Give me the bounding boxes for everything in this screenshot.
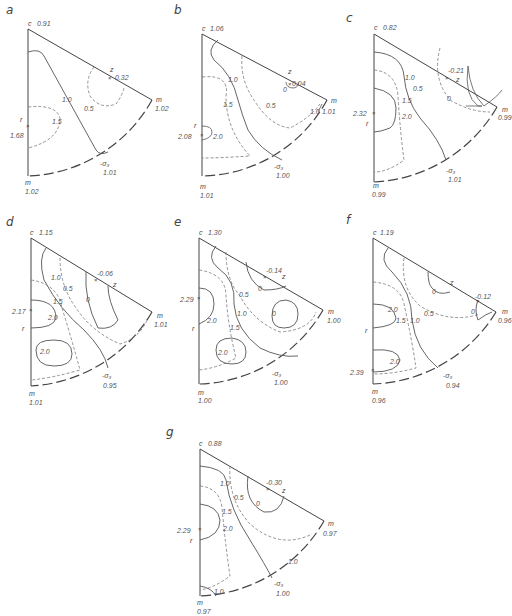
contour-label: 1.0	[237, 310, 247, 317]
m-bottom-value: 1.02	[25, 188, 39, 195]
r-label: r	[365, 327, 367, 334]
m-bottom-label: m	[29, 390, 35, 397]
svg-text:×: ×	[445, 75, 449, 81]
contour-label: 1.5	[396, 317, 406, 324]
m-label: m	[328, 308, 334, 315]
sigma3-label: -σ₃	[274, 580, 283, 587]
contour-label: 2.0	[223, 525, 233, 532]
contour-label: 0	[258, 285, 262, 292]
m-bottom-value: 1.01	[29, 399, 43, 406]
m-bottom-label: m	[372, 388, 378, 395]
m-bottom-value: 0.96	[372, 397, 386, 404]
m-bottom-label: m	[25, 179, 31, 186]
contour-label: 0.5	[84, 105, 94, 112]
sector-diagram: × ×	[170, 200, 340, 400]
contour-label: 1.5	[230, 324, 240, 331]
contour-label: 0	[283, 86, 287, 93]
m-right-value: 0.99	[498, 114, 512, 121]
contour-label: 0.5	[424, 310, 434, 317]
r-value: 2.39	[350, 369, 364, 376]
m-label: m	[502, 308, 508, 315]
sector-diagram: × ×	[340, 200, 512, 400]
sigma3-label: -σ₃	[443, 372, 452, 379]
sigma3-value: 1.00	[276, 172, 290, 179]
c-label: c	[199, 440, 203, 447]
r-label: r	[22, 325, 24, 332]
sector-diagram: × ×	[0, 200, 170, 400]
contour-label: 2.0	[48, 314, 58, 321]
panel-c: c × × c 0.82 -0.21 z 1.0 0.5 1.5 2.0 0 m…	[340, 0, 512, 200]
svg-text:×: ×	[198, 526, 202, 532]
contour-label: 1.0	[220, 480, 230, 487]
z-value: -0.21	[448, 67, 464, 74]
svg-text:×: ×	[266, 486, 270, 492]
m-label: m	[331, 97, 337, 104]
m-bottom-label: m	[197, 599, 203, 606]
m-right-value: 0.96	[498, 317, 512, 324]
sigma3-value: 1.00	[274, 379, 288, 386]
svg-text:×: ×	[200, 132, 204, 138]
m-bottom-value: 1.01	[200, 192, 214, 199]
c-value: 0.88	[208, 440, 222, 447]
panel-g: g × × c 0.88 -0.30 z 1.0 0.5 0 1.5 2.0 1…	[160, 400, 340, 616]
r-value: 1.68	[10, 132, 24, 139]
contour-label: 2.0	[388, 306, 398, 313]
contour-label: 0	[432, 288, 436, 295]
contour-label: 1.0	[214, 588, 224, 595]
r-value: 2.08	[178, 133, 192, 140]
z-value: -0.12	[475, 293, 491, 300]
panel-e: e × × c 1.30 -0.14 z 0 0.5 1.0 1.5 2.0 0…	[170, 200, 340, 400]
z-value: -0.30	[266, 479, 282, 486]
r-value: 2.29	[177, 527, 191, 534]
z-label: z	[450, 279, 454, 286]
z-label: z	[110, 66, 114, 73]
m-right-value: 1.01	[154, 321, 168, 328]
sigma3-value: 0.94	[446, 382, 460, 389]
sigma3-value: 1.01	[103, 169, 117, 176]
m-right-value: 1.02	[155, 105, 169, 112]
contour-label: 0	[471, 308, 475, 315]
sigma3-label: -σ₃	[446, 167, 455, 174]
c-label: c	[30, 229, 34, 236]
z-value: -0.14	[266, 267, 282, 274]
contour-label: 0.5	[266, 102, 276, 109]
contour-label: 2.0	[207, 317, 217, 324]
m-right-value: 0.97	[323, 530, 337, 537]
m-label: m	[156, 96, 162, 103]
contour-label: 1.5	[52, 118, 62, 125]
contour-label: 2.0	[213, 133, 223, 140]
m-label: m	[502, 106, 508, 113]
c-label: c	[199, 229, 203, 236]
r-label: r	[366, 120, 368, 127]
contour-label: 0.5	[234, 494, 244, 501]
svg-text:×: ×	[372, 110, 376, 116]
m-bottom-value: 0.97	[197, 608, 211, 615]
contour-label: 0.5	[413, 85, 423, 92]
contour-label: 2.0	[218, 349, 228, 356]
contour-label: 1.5	[53, 298, 63, 305]
m-bottom-label: m	[200, 183, 206, 190]
z-label: z	[282, 273, 286, 280]
z-label: z	[456, 76, 460, 83]
svg-text:×: ×	[108, 75, 112, 81]
c-label: c	[373, 229, 377, 236]
r-label: r	[194, 122, 196, 129]
svg-text:×: ×	[26, 123, 30, 129]
sector-diagram: × ×	[160, 400, 340, 616]
contour-label: 1.0	[405, 74, 415, 81]
svg-text:×: ×	[29, 307, 33, 313]
c-value: 1.06	[210, 25, 224, 32]
contour-label: 0	[272, 310, 276, 317]
contour-label: 1.0	[51, 274, 61, 281]
panel-f: f × × c 1.19 z -0.12 0 0 0.5 1.0 1.5 2.0…	[340, 200, 512, 400]
contour-label: 0	[86, 296, 90, 303]
contour-label: 0	[447, 95, 451, 102]
sigma3-label: -σ₃	[102, 372, 111, 379]
contour-label: 1.5	[222, 508, 232, 515]
r-value: 2.17	[12, 308, 26, 315]
r-label: r	[192, 325, 194, 332]
m-bottom-label: m	[373, 182, 379, 189]
sigma3-value: 0.95	[103, 382, 117, 389]
m-bottom-label: m	[198, 389, 204, 396]
c-value: 1.30	[208, 229, 222, 236]
